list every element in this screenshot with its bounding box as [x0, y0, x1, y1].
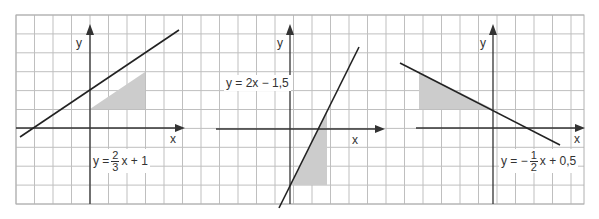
- fraction-numerator: 1: [530, 150, 538, 162]
- fraction-numerator: 2: [111, 150, 119, 162]
- fraction: 2 3: [111, 150, 119, 173]
- graphs-figure: y x y = 2 3 x + 1 y x y = 2x − 1,5 y x y…: [0, 0, 599, 219]
- fraction-denominator: 3: [112, 162, 118, 173]
- x-axis-arrow-icon: [375, 125, 385, 133]
- coordinate-grid: [0, 0, 599, 219]
- y-axis-arrow-icon: [86, 24, 94, 35]
- graph3-equation-label: y = − 1 2 x + 0,5: [499, 149, 578, 173]
- graph2-x-axis-label: x: [352, 133, 358, 147]
- function-line: [20, 30, 179, 137]
- graph2-equation-label: y = 2x − 1,5: [224, 75, 291, 91]
- fraction: 1 2: [530, 150, 538, 173]
- graph1-equation-label: y = 2 3 x + 1: [91, 149, 150, 173]
- y-axis-arrow-icon: [489, 24, 497, 35]
- graph1-y-axis-label: y: [76, 36, 82, 50]
- fraction-denominator: 2: [531, 162, 537, 173]
- graph2-y-axis-label: y: [277, 36, 283, 50]
- equation-suffix: x + 1: [121, 154, 147, 168]
- x-axis-arrow-icon: [175, 124, 185, 132]
- equation-prefix: y =: [93, 154, 109, 168]
- equation-suffix: x + 0,5: [540, 154, 576, 168]
- equation-prefix: y = −: [501, 154, 528, 168]
- graph1-x-axis-label: x: [170, 132, 176, 146]
- y-axis-arrow-icon: [286, 24, 294, 35]
- graph3-x-axis-label: x: [574, 132, 580, 146]
- graph3-y-axis-label: y: [480, 36, 486, 50]
